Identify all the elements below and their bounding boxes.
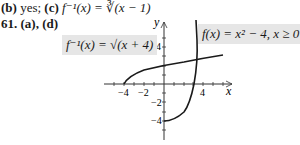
x-tick-label: −2 bbox=[138, 87, 149, 98]
y-tick-label: −2 bbox=[151, 97, 162, 108]
graph: −4 −2 4 4 −2 −4 x y bbox=[0, 0, 300, 145]
x-tick-label: 4 bbox=[200, 87, 205, 98]
x-tick-label: −4 bbox=[118, 87, 129, 98]
label-f-inverse: f⁻¹(x) = √(x + 4) bbox=[62, 35, 157, 55]
curve-f-inverse bbox=[124, 55, 223, 84]
y-axis-label: y bbox=[153, 15, 160, 29]
curve-f bbox=[164, 20, 197, 121]
label-f: f(x) = x² − 4, x ≥ 0 bbox=[198, 24, 300, 44]
y-tick-label: −4 bbox=[151, 115, 162, 126]
x-axis-label: x bbox=[225, 84, 232, 98]
